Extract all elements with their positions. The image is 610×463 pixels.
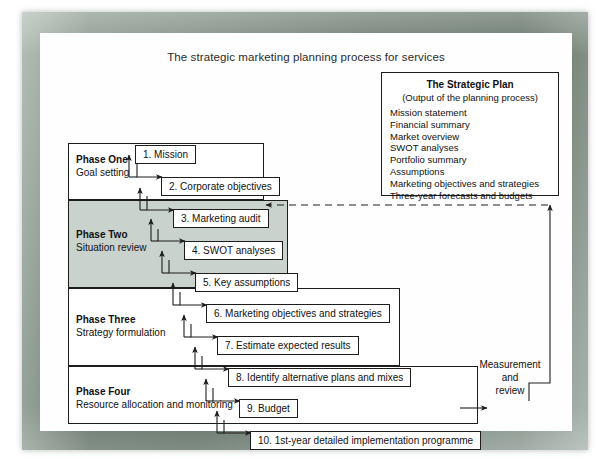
measurement-line-1: Measurement bbox=[474, 358, 546, 371]
step-box-9[interactable]: 9. Budget bbox=[239, 399, 298, 418]
step-box-3[interactable]: 3. Marketing audit bbox=[173, 209, 269, 228]
step-box-7[interactable]: 7. Estimate expected results bbox=[217, 336, 359, 355]
measurement-line-2: and bbox=[474, 371, 546, 384]
measurement-line-3: review bbox=[474, 384, 546, 397]
photo-frame: The strategic marketing planning process… bbox=[0, 0, 610, 463]
step-box-10[interactable]: 10. 1st-year detailed implementation pro… bbox=[250, 431, 481, 450]
step-box-2[interactable]: 2. Corporate objectives bbox=[161, 177, 280, 196]
step-box-1[interactable]: 1. Mission bbox=[135, 145, 196, 164]
measurement-and-review-label: Measurement and review bbox=[474, 358, 546, 397]
step-box-8[interactable]: 8. Identify alternative plans and mixes bbox=[228, 368, 411, 387]
diagram-canvas: The strategic marketing planning process… bbox=[40, 33, 572, 431]
step-box-4[interactable]: 4. SWOT analyses bbox=[184, 241, 283, 260]
step-box-6[interactable]: 6. Marketing objectives and strategies bbox=[206, 304, 390, 323]
step-box-5[interactable]: 5. Key assumptions bbox=[195, 273, 298, 292]
